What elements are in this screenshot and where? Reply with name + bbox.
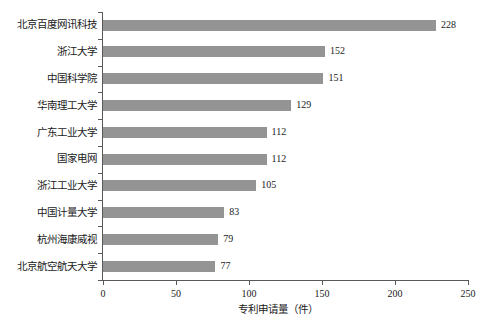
y-axis-tick <box>98 12 103 13</box>
y-axis-tick <box>98 39 103 40</box>
x-axis-tick <box>249 281 250 285</box>
x-axis-tick <box>395 281 396 285</box>
x-axis-line <box>103 280 469 281</box>
bar-value-label: 105 <box>261 175 276 195</box>
bar-value-label: 112 <box>272 149 287 169</box>
plot-area: 228152151129112112105837977 <box>103 12 468 280</box>
bar <box>103 261 215 272</box>
bar-row: 112 <box>103 146 468 173</box>
x-axis-tick-label: 200 <box>375 287 415 301</box>
bar-value-label: 228 <box>441 15 456 35</box>
x-axis-title: 专利申请量（件） <box>0 302 495 317</box>
category-label: 国家电网 <box>0 152 97 166</box>
category-label: 北京航空航天大学 <box>0 260 97 274</box>
category-label: 华南理工大学 <box>0 99 97 113</box>
category-label: 中国科学院 <box>0 72 97 86</box>
y-axis-tick <box>98 253 103 254</box>
y-axis-tick <box>98 173 103 174</box>
bar-chart: 228152151129112112105837977 北京百度网讯科技浙江大学… <box>0 0 495 327</box>
bar-row: 105 <box>103 173 468 200</box>
bar-value-label: 129 <box>296 95 311 115</box>
bar <box>103 180 256 191</box>
bar <box>103 207 224 218</box>
category-label: 中国计量大学 <box>0 206 97 220</box>
x-axis-tick-label: 0 <box>83 287 123 301</box>
bar <box>103 234 218 245</box>
bar-row: 83 <box>103 200 468 227</box>
bar-row: 228 <box>103 12 468 39</box>
bar <box>103 127 267 138</box>
bar <box>103 100 291 111</box>
x-axis-tick <box>176 281 177 285</box>
x-axis-tick-label: 100 <box>229 287 269 301</box>
bar <box>103 46 325 57</box>
x-axis-tick-label: 250 <box>448 287 488 301</box>
bar-row: 77 <box>103 253 468 280</box>
bar-value-label: 79 <box>223 229 233 249</box>
bar-value-label: 83 <box>229 202 239 222</box>
y-axis-tick <box>98 200 103 201</box>
y-axis-tick <box>98 226 103 227</box>
bar <box>103 73 323 84</box>
bar <box>103 154 267 165</box>
bar-value-label: 152 <box>330 41 345 61</box>
x-axis-tick-label: 50 <box>156 287 196 301</box>
bar-row: 129 <box>103 92 468 119</box>
y-axis-tick <box>98 119 103 120</box>
bar-value-label: 151 <box>328 68 343 88</box>
category-label: 浙江工业大学 <box>0 179 97 193</box>
x-axis-tick <box>468 281 469 285</box>
category-label: 北京百度网讯科技 <box>0 18 97 32</box>
category-label: 广东工业大学 <box>0 126 97 140</box>
bar-row: 151 <box>103 66 468 93</box>
x-axis-tick <box>322 281 323 285</box>
bar-value-label: 112 <box>272 122 287 142</box>
category-label: 浙江大学 <box>0 45 97 59</box>
y-axis-tick <box>98 146 103 147</box>
x-axis-tick <box>103 281 104 285</box>
category-label: 杭州海康威视 <box>0 233 97 247</box>
x-axis-tick-label: 150 <box>302 287 342 301</box>
bar-row: 152 <box>103 39 468 66</box>
bar-row: 79 <box>103 226 468 253</box>
y-axis-tick <box>98 92 103 93</box>
bar <box>103 20 436 31</box>
x-axis-title-text: 专利申请量（件） <box>238 302 318 317</box>
bar-row: 112 <box>103 119 468 146</box>
y-axis-tick <box>98 66 103 67</box>
bar-value-label: 77 <box>220 256 230 276</box>
